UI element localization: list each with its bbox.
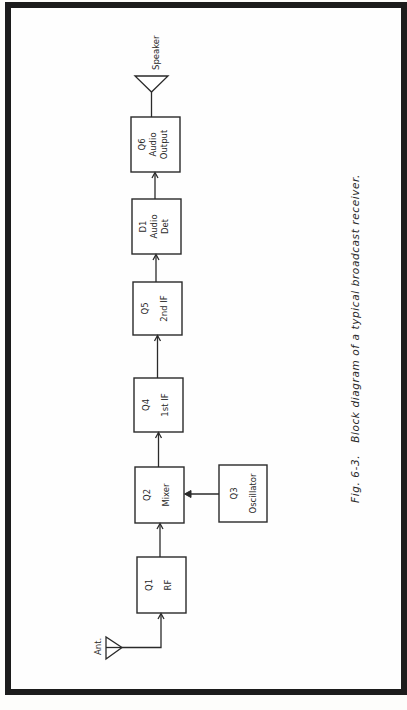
- block-q4-name: 1st IF: [160, 393, 170, 416]
- block-q3-oscillator: Q3 Oscillator: [219, 465, 267, 522]
- svg-text:Fig. 6-3. Block diagra: Fig. 6-3. Block diagram of a typical bro…: [349, 174, 361, 503]
- caption-text: Block diagram of a typical broadcast rec…: [349, 174, 361, 443]
- arrow-d1-to-q6: [152, 173, 158, 200]
- arrow-antenna-to-q1: [122, 614, 164, 648]
- block-q6-name-line1: Audio: [148, 132, 158, 156]
- speaker-label: Speaker: [151, 35, 161, 70]
- block-q6-name-line2: Output: [159, 129, 169, 159]
- scanned-page: Speaker Q6 Audio Output D1 Audio Det: [0, 0, 407, 710]
- block-q2-ref: Q2: [142, 489, 152, 501]
- block-d1-ref: D1: [138, 221, 148, 233]
- block-d1-audio-det: D1 Audio Det: [132, 199, 181, 254]
- speaker-symbol: [135, 76, 168, 117]
- block-q2-mixer: Q2 Mixer: [135, 467, 184, 523]
- antenna-symbol: [106, 637, 122, 659]
- block-d1-name-line1: Audio: [149, 214, 159, 238]
- caption-number: Fig. 6-3.: [349, 455, 361, 503]
- block-q5-ref: Q5: [140, 302, 150, 314]
- block-q1-name: RF: [163, 579, 173, 590]
- arrow-q2-to-q4: [156, 433, 162, 468]
- block-q3-ref: Q3: [229, 487, 239, 499]
- block-q6-audio-output: Q6 Audio Output: [131, 117, 180, 172]
- arrow-q1-to-q2: [157, 524, 163, 558]
- arrow-q4-to-q5: [155, 336, 161, 379]
- arrow-q3-to-q2: [185, 491, 220, 498]
- block-diagram: Speaker Q6 Audio Output D1 Audio Det: [0, 0, 407, 710]
- block-q2-name: Mixer: [161, 483, 171, 507]
- block-q4-ref: Q4: [141, 399, 151, 411]
- block-d1-name-line2: Det: [160, 218, 170, 234]
- figure-caption: Fig. 6-3. Block diagram of a typical bro…: [349, 174, 361, 503]
- arrow-q5-to-d1: [153, 255, 159, 283]
- block-q6-ref: Q6: [137, 138, 147, 150]
- block-q5-name: 2nd IF: [159, 295, 169, 321]
- block-q4-1st-if: Q4 1st IF: [134, 378, 183, 432]
- block-q5-2nd-if: Q5 2nd IF: [133, 282, 182, 335]
- block-q1-ref: Q1: [144, 579, 154, 591]
- antenna-label: Ant.: [93, 638, 103, 655]
- block-q3-name: Oscillator: [248, 473, 258, 514]
- block-q1-rf: Q1 RF: [137, 557, 186, 613]
